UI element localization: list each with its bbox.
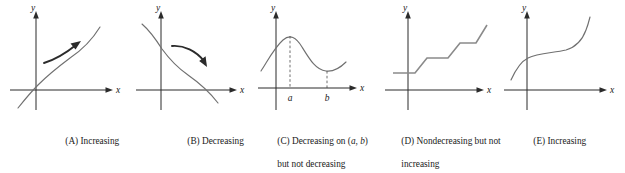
caption-c-line-2: but not decreasing	[277, 159, 345, 169]
caption-c-line-1: (C) Decreasing on (a, b)	[277, 136, 368, 146]
panel-b: y x	[128, 0, 253, 118]
x-axis-arrowhead	[350, 85, 358, 91]
trend-arrow-shaft	[172, 46, 204, 61]
y-axis-label: y	[521, 3, 527, 13]
panel-e: y x	[498, 0, 623, 118]
y-axis-label: y	[402, 3, 408, 13]
curve-increasing	[18, 27, 100, 108]
x-axis-arrowhead	[230, 87, 238, 93]
x-axis-arrowhead	[477, 87, 485, 93]
x-axis-arrowhead	[106, 87, 114, 93]
caption-e-line-1: (E) Increasing	[533, 136, 586, 146]
caption-d-line-2: increasing	[401, 159, 439, 169]
x-axis-label: x	[609, 85, 615, 95]
trend-arrow-shaft	[44, 45, 76, 63]
curve-decreasing	[142, 24, 218, 103]
tick-label-b: b	[325, 93, 330, 103]
x-axis-label: x	[359, 83, 365, 93]
curve-hump-valley	[261, 37, 346, 71]
panel-d: y x	[377, 0, 502, 118]
y-axis-label: y	[270, 3, 276, 13]
x-axis-label: x	[486, 85, 492, 95]
curve-cubic-flat	[511, 17, 590, 80]
x-axis-label: x	[115, 85, 121, 95]
panel-a: y x	[0, 0, 125, 118]
panel-c: y x a b	[254, 0, 379, 118]
y-axis-label: y	[155, 3, 161, 13]
y-axis-label: y	[30, 3, 36, 13]
caption-d-line-1: (D) Nondecreasing but not	[401, 136, 500, 146]
caption-d: (D) Nondecreasing but not increasing	[382, 124, 510, 173]
tick-label-a: a	[288, 93, 293, 103]
caption-a: (A) Increasing	[46, 124, 161, 159]
curve-staircase	[393, 25, 487, 73]
caption-c: (C) Decreasing on (a, b) but not decreas…	[258, 124, 388, 173]
caption-a-line-1: (A) Increasing	[65, 136, 119, 146]
caption-e: (E) Increasing	[514, 124, 625, 159]
x-axis-label: x	[239, 85, 245, 95]
x-axis-arrowhead	[600, 87, 608, 93]
figure-root: y x y x y	[0, 0, 625, 173]
caption-b-line-1: (B) Decreasing	[187, 136, 244, 146]
